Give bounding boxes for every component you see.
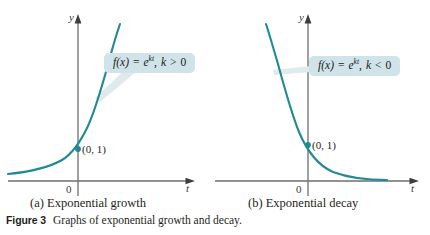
callout-comparison-a: > — [166, 56, 181, 68]
figure-caption: Figure 3Graphs of exponential growth and… — [6, 214, 242, 226]
point-label-0-1-a: (0, 1) — [82, 144, 106, 155]
figure-caption-text: Graphs of exponential growth and decay. — [46, 214, 242, 226]
subcaption-growth: (a) Exponential growth — [30, 196, 146, 211]
callout-equals-b: = — [334, 59, 349, 71]
decay-curve — [266, 24, 387, 180]
callout-fn-a: f(x) — [113, 56, 129, 68]
point-marker-0-1-b — [305, 142, 311, 148]
origin-label-a: 0 — [66, 184, 72, 195]
panel-exponential-decay: y t 0 (0, 1) f(x)=ekt,k<0 — [215, 0, 430, 212]
callout-k-b: k — [362, 59, 371, 71]
callout-decay: f(x)=ekt,k<0 — [309, 56, 400, 76]
growth-plot-svg — [0, 0, 215, 212]
t-axis-label-a: t — [186, 183, 189, 194]
y-axis-label-b: y — [299, 12, 304, 23]
y-axis-label-a: y — [69, 12, 74, 23]
figure-container: y t 0 (0, 1) f(x)=ekt,k>0 y t 0 (0, 1) — [0, 0, 430, 235]
callout-equals-a: = — [129, 56, 144, 68]
panel-exponential-growth: y t 0 (0, 1) f(x)=ekt,k>0 — [0, 0, 215, 212]
t-axis-label-b: t — [411, 183, 414, 194]
callout-k-a: k — [157, 56, 166, 68]
point-label-0-1-b: (0, 1) — [312, 140, 336, 151]
subcaption-decay: (b) Exponential decay — [248, 196, 358, 211]
y-axis-arrowhead-a — [75, 14, 82, 24]
figure-number-label: Figure 3 — [6, 214, 46, 226]
y-axis-arrowhead-b — [305, 14, 312, 24]
callout-growth: f(x)=ekt,k>0 — [104, 53, 195, 73]
point-marker-0-1-a — [75, 146, 81, 152]
decay-plot-svg — [215, 0, 430, 212]
origin-label-b: 0 — [296, 184, 302, 195]
callout-fn-b: f(x) — [318, 59, 334, 71]
callout-comparison-b: < — [371, 59, 386, 71]
callout-zero-b: 0 — [385, 59, 391, 71]
callout-zero-a: 0 — [180, 56, 186, 68]
